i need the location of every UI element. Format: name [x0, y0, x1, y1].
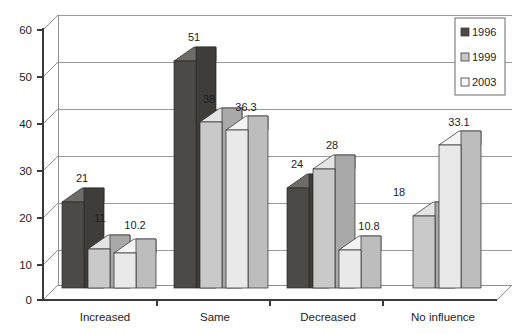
ytick-label-30: 30: [19, 165, 32, 177]
legend-label-2003: 2003: [472, 76, 496, 88]
legend-swatch-1996: [461, 28, 469, 36]
data-label-no-influence-1999: 18: [393, 186, 405, 198]
ytick-label-10: 10: [19, 259, 32, 271]
ytick-label-60: 60: [19, 24, 32, 36]
data-label-increased-2003: 10.2: [124, 219, 145, 231]
legend-swatch-1999: [461, 53, 469, 61]
data-label-same-1996: 51: [188, 31, 200, 43]
category-label-no-influence: No influence: [411, 311, 475, 323]
ytick-label-40: 40: [19, 118, 32, 130]
legend-label-1999: 1999: [472, 51, 496, 63]
ytick-label-0: 0: [26, 294, 32, 306]
chart-container: 60 50 40 30 20 10 0: [0, 0, 517, 334]
category-label-same: Same: [200, 311, 230, 323]
legend-swatch-2003: [461, 78, 469, 86]
legend-entry-1999[interactable]: 1999: [461, 51, 496, 63]
data-label-no-influence-2003: 33.1: [448, 116, 469, 128]
legend-label-1996: 1996: [472, 26, 496, 38]
ytick-label-20: 20: [19, 212, 32, 224]
data-label-decreased-1999: 28: [326, 139, 338, 151]
legend-entry-2003[interactable]: 2003: [461, 76, 496, 88]
legend: 1996 1999 2003: [455, 18, 505, 95]
category-label-increased: Increased: [80, 311, 131, 323]
bar-chart-3d: 60 50 40 30 20 10 0: [0, 0, 517, 334]
data-label-same-2003: 36.3: [235, 101, 256, 113]
bar-same-2003[interactable]: [226, 116, 268, 288]
data-label-decreased-1996: 24: [291, 158, 303, 170]
ytick-label-50: 50: [19, 71, 32, 83]
legend-entry-1996[interactable]: 1996: [461, 26, 496, 38]
data-label-same-1999: 38: [203, 93, 215, 105]
data-label-increased-1999: 11: [94, 212, 105, 224]
data-label-increased-1996: 21: [76, 172, 88, 184]
category-label-decreased: Decreased: [300, 311, 356, 323]
bar-no-influence-2003[interactable]: [439, 131, 481, 288]
data-label-decreased-2003: 10.8: [358, 220, 379, 232]
